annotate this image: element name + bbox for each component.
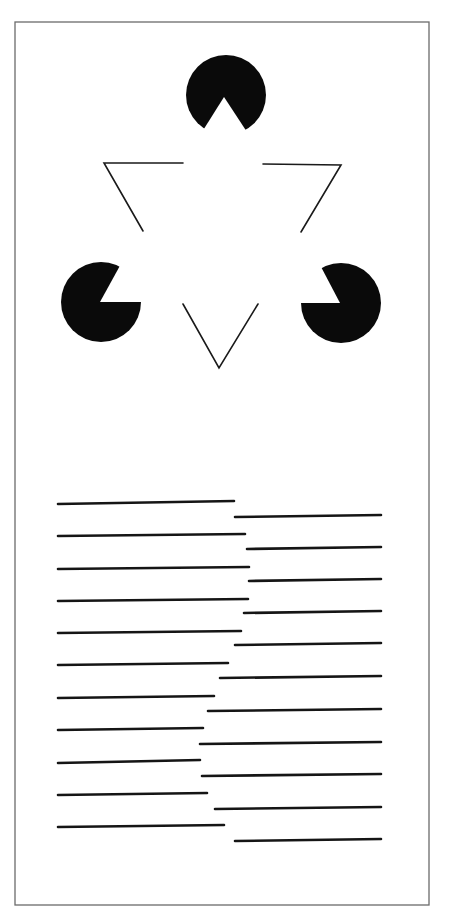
outline-bottom-corner — [183, 304, 258, 368]
line-row-8-left — [58, 728, 203, 730]
line-row-5-left — [58, 631, 241, 633]
line-row-6-right — [220, 676, 381, 678]
outline-triangle-corners — [104, 163, 341, 368]
offset-line-grating — [58, 501, 381, 841]
line-row-11-right — [235, 839, 381, 841]
line-row-3-left — [58, 567, 249, 569]
line-row-11-left — [58, 825, 224, 827]
line-row-1-right — [235, 515, 381, 517]
figure-frame — [15, 22, 429, 905]
pacman-right — [301, 263, 381, 343]
line-row-8-right — [200, 742, 381, 744]
line-row-5-right — [235, 643, 381, 645]
pacman-top — [186, 55, 266, 135]
line-row-9-left — [58, 760, 200, 763]
line-row-10-left — [58, 793, 207, 795]
outline-right-corner — [263, 164, 341, 232]
line-row-4-right — [244, 611, 381, 613]
line-row-3-right — [249, 579, 381, 581]
line-row-4-left — [58, 599, 248, 601]
kanizsa-triangle — [61, 55, 381, 368]
line-row-10-right — [215, 807, 381, 809]
illusory-contours-figure — [0, 0, 455, 910]
line-row-6-left — [58, 663, 228, 665]
outline-left-corner — [104, 163, 183, 231]
line-row-7-left — [58, 696, 214, 698]
line-row-7-right — [208, 709, 381, 711]
line-row-9-right — [202, 774, 381, 776]
line-row-1-left — [58, 501, 234, 504]
pacman-inducers — [61, 55, 381, 343]
pacman-left — [61, 262, 141, 342]
line-row-2-left — [58, 534, 245, 536]
line-row-2-right — [247, 547, 381, 549]
